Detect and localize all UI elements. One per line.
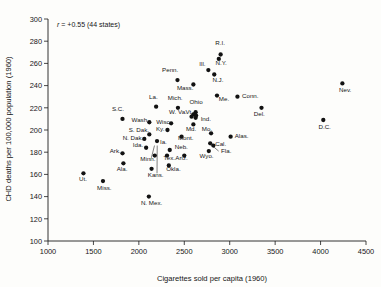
chart-canvas: 1001201401601802002202402602803001000150…	[0, 0, 381, 287]
data-point-label: Ark.	[110, 147, 121, 154]
data-point-label: Wash.	[132, 116, 150, 123]
data-point-label: Ut.	[79, 175, 87, 182]
data-point-label: Me.	[219, 95, 230, 102]
data-point-marker	[321, 118, 325, 122]
data-point-marker	[165, 128, 169, 132]
y-tick-label: 140	[30, 192, 42, 201]
data-point-label: Neb.	[175, 143, 188, 150]
data-point-marker	[144, 146, 148, 150]
data-point-label: Kans.	[148, 171, 164, 178]
data-point-label: Conn.	[242, 92, 259, 99]
y-tick-label: 260	[30, 59, 42, 68]
x-tick-label: 2000	[131, 247, 147, 256]
data-point-marker	[194, 113, 198, 117]
data-points	[81, 52, 344, 198]
y-tick-label: 240	[30, 81, 42, 90]
data-point-label: Mo.	[202, 125, 213, 132]
data-point-marker	[154, 105, 158, 109]
data-point-label: Mich.	[168, 94, 183, 101]
data-point-label: Okla.	[166, 165, 181, 172]
data-point-marker	[340, 81, 344, 85]
data-point-marker	[218, 52, 222, 56]
data-point-label: Ala.	[117, 165, 128, 172]
data-point-marker	[168, 148, 172, 152]
data-point-label: Ill.	[199, 60, 205, 67]
data-point-label: Tex.	[164, 154, 176, 161]
x-tick-label: 4000	[312, 247, 328, 256]
data-point-label: N. Mex.	[141, 199, 163, 206]
data-point-label: Mass.	[177, 84, 194, 91]
data-point-marker	[175, 78, 179, 82]
data-point-label: Wyo.	[200, 152, 214, 159]
y-tick-label: 200	[30, 126, 42, 135]
tick-labels: 1001201401601802002202402602803001000150…	[30, 15, 375, 256]
y-axis-title: CHD deaths per 100,000 population (1960)	[4, 56, 13, 202]
data-point-label: Ida.	[133, 141, 144, 148]
y-tick-label: 300	[30, 15, 42, 24]
data-point-label: W. Va.	[169, 108, 187, 115]
data-point-label: Ohio	[190, 98, 204, 105]
data-point-label: R.I.	[215, 39, 225, 46]
x-tick-label: 1000	[40, 247, 56, 256]
correlation-annotation: r = +0.55 (44 states)	[57, 21, 120, 29]
data-point-label: Nev.	[339, 86, 352, 93]
data-point-marker	[235, 95, 239, 99]
data-point-marker	[228, 135, 232, 139]
y-tick-label: 160	[30, 170, 42, 179]
x-axis-title: Cigarettes sold per capita (1960)	[157, 274, 268, 283]
data-point-label: Ind.	[201, 115, 212, 122]
y-tick-label: 120	[30, 215, 42, 224]
data-point-label: Cal.	[215, 140, 226, 147]
y-tick-label: 280	[30, 37, 42, 46]
data-point-marker	[101, 179, 105, 183]
x-tick-label: 2500	[176, 247, 192, 256]
data-point-label: Miss.	[97, 184, 112, 191]
y-tick-label: 220	[30, 104, 42, 113]
x-tick-label: 3000	[221, 247, 237, 256]
data-point-label: S.C.	[112, 105, 124, 112]
data-point-label: N.Y.	[215, 59, 227, 66]
x-tick-label: 3500	[267, 247, 283, 256]
y-tick-label: 180	[30, 148, 42, 157]
data-point-label: Md.	[186, 125, 197, 132]
data-point-marker	[147, 194, 151, 198]
data-point-label: Minn.	[140, 155, 155, 162]
data-point-marker	[206, 68, 210, 72]
data-point-labels: R.I.N.Y.Ill.N.J.Penn.Nev.Mass.Me.Conn.La…	[79, 39, 351, 207]
data-point-label: Ky.	[156, 125, 165, 132]
data-point-label: S. Dak.	[129, 126, 150, 133]
data-point-marker	[120, 117, 124, 121]
data-point-label: Ariz.	[175, 154, 188, 161]
x-tick-label: 4500	[358, 247, 374, 256]
data-point-marker	[155, 139, 159, 143]
data-point-label: N.J.	[212, 76, 223, 83]
data-point-label: D.C.	[318, 123, 331, 130]
data-point-marker	[120, 151, 124, 155]
data-point-label: La.	[149, 93, 158, 100]
x-tick-label: 1500	[85, 247, 101, 256]
data-point-label: Mont.	[178, 134, 194, 141]
data-point-label: Alas.	[235, 132, 249, 139]
data-point-label: Ia.	[160, 138, 167, 145]
data-point-label: Fla.	[221, 147, 232, 154]
data-point-label: Del.	[254, 110, 265, 117]
correlation-value: = +0.55 (44 states)	[59, 21, 120, 29]
scatter-plot-figure: 1001201401601802002202402602803001000150…	[0, 0, 381, 287]
data-point-label: Penn.	[162, 66, 178, 73]
y-tick-label: 100	[30, 237, 42, 246]
